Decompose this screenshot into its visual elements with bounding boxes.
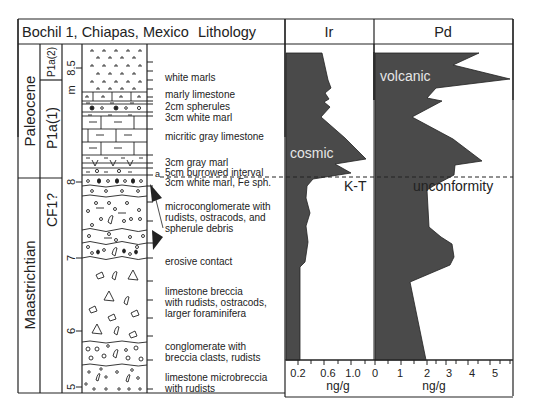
label-3cm-white-marl: 3cm white marl	[165, 112, 232, 123]
zone-p1a1: P1a(1)	[44, 107, 60, 149]
depth-tick-8-5: 8.5	[65, 60, 77, 75]
label-microbreccia-1: limestone microbreccia	[165, 372, 268, 383]
marl-pattern	[90, 49, 142, 89]
lithology-heading: Lithology	[198, 24, 257, 40]
depth-tick-5: 5	[65, 384, 77, 390]
stage-maastrichtian: Maastrichtian	[21, 240, 38, 329]
ir-heading: Ir	[325, 24, 334, 40]
annotation-cosmic: cosmic	[290, 145, 334, 161]
pd-tick-0: 0	[372, 367, 378, 379]
label-erosive-contact: erosive contact	[165, 256, 232, 267]
label-microconglomerate-3: spherule debris	[165, 223, 233, 234]
pd-tick-3: 3	[446, 367, 452, 379]
depth-tick-6: 6	[65, 328, 77, 334]
lithology-column	[82, 49, 147, 390]
label-white-marls: white marls	[164, 72, 216, 83]
ir-profile	[286, 53, 366, 360]
pd-tick-5: 5	[492, 367, 498, 379]
label-conglomerate-1: conglomerate with	[165, 341, 246, 352]
ir-tick-0-6: 0.6	[320, 367, 335, 379]
label-microbreccia-2: with rudists	[164, 383, 215, 394]
pd-axis-labels: 0 1 2 3 4 5 ng/g	[372, 367, 498, 393]
label-breccia-1: limestone breccia	[165, 286, 243, 297]
label-breccia-3: larger foraminifera	[165, 308, 247, 319]
pd-tick-4: 4	[469, 367, 475, 379]
annotation-volcanic: volcanic	[380, 68, 431, 84]
lithology-descriptions: white marls marly limestone 2cm spherule…	[155, 72, 271, 394]
depth-unit: m	[65, 85, 77, 94]
title: Bochil 1, Chiapas, Mexico	[22, 24, 189, 40]
pd-tick-1: 1	[397, 367, 403, 379]
depth-tick-7: 7	[65, 255, 77, 261]
label-marly-limestone: marly limestone	[165, 89, 235, 100]
depth-tick-8: 8	[65, 179, 77, 185]
annotation-unconformity: unconformity	[413, 178, 493, 194]
stage-paleocene: Paleocene	[21, 76, 38, 147]
zone-p1a2: P1a(2)	[46, 47, 57, 77]
ir-tick-1-0: 1.0	[345, 367, 360, 379]
pd-unit: ng/g	[422, 379, 445, 393]
label-microconglomerate-1: microconglomerate with	[165, 201, 271, 212]
marker-connector	[155, 196, 163, 228]
zone-cf1: CF1?	[44, 193, 60, 227]
label-3cm-white-marl-fe: 3cm white marl, Fe sph.	[165, 177, 271, 188]
label-micritic-gray-limestone: micritic gray limestone	[165, 131, 264, 142]
pd-tick-2: 2	[424, 367, 430, 379]
label-2cm-spherules: 2cm spherules	[165, 101, 230, 112]
label-microconglomerate-2: rudists, ostracods, and	[165, 212, 266, 223]
label-breccia-2: with rudists, ostracods,	[164, 297, 267, 308]
label-conglomerate-2: breccia clasts, rudists	[165, 352, 261, 363]
marker-triangle-lower	[152, 230, 163, 250]
annotation-kt: K-T	[344, 178, 367, 194]
pd-profile	[375, 53, 510, 360]
lithology-ticks	[147, 62, 153, 389]
ir-tick-0-2: 0.2	[290, 367, 305, 379]
ir-axis-labels: 0.2 0.6 1.0 ng/g	[290, 367, 360, 393]
depth-axis	[76, 68, 82, 387]
label-a: a	[155, 169, 160, 179]
pd-heading: Pd	[434, 24, 452, 40]
x-axes	[286, 360, 513, 365]
stratigraphic-diagram: Bochil 1, Chiapas, Mexico Lithology Ir P…	[0, 0, 533, 416]
ir-unit: ng/g	[326, 379, 349, 393]
